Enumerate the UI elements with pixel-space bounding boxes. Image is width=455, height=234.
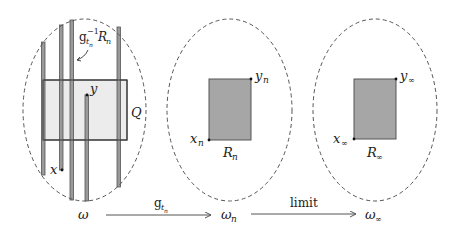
strip-bar [85,95,89,201]
diagram: x y Q g t n −1 R n ω g t n x n [0,0,455,234]
arrow-g-tn: g t n [106,196,211,215]
panel-omega-inf: x ∞ y ∞ R ∞ ω ∞ [313,19,437,224]
strip-bar [70,20,74,200]
svg-text:∞: ∞ [375,215,382,224]
svg-text:n: n [263,75,269,85]
point-x [61,169,64,172]
label-r-inf: R ∞ [366,145,383,162]
svg-text:y: y [399,68,408,83]
svg-text:y: y [254,68,263,83]
label-y: y [89,81,98,96]
svg-text:∞: ∞ [341,139,348,148]
svg-text:n: n [198,138,204,148]
strip-label: g t n −1 R n [79,27,111,48]
rect-r-inf [354,79,396,139]
label-y-n: y n [254,68,269,85]
point-y [86,94,89,97]
point-y-inf [395,78,398,81]
strip-bar [60,25,64,170]
arrow-limit: limit [251,196,356,214]
svg-text:∞: ∞ [376,153,383,162]
svg-text:limit: limit [290,196,318,210]
label-omega-inf: ω ∞ [365,207,382,224]
svg-text:n: n [231,214,237,224]
label-y-inf: y ∞ [399,68,415,85]
point-x-n [208,139,211,142]
label-omega-n: ω n [221,207,237,224]
svg-text:x: x [333,131,341,146]
label-x: x [50,162,58,177]
panel-omega-n: x n y n R n ω n [167,19,292,224]
point-y-n [250,78,253,81]
panel-omega: x y Q g t n −1 R n ω [23,19,146,222]
rect-r-n [209,79,251,140]
svg-text:∞: ∞ [408,76,415,85]
label-x-n: x n [190,131,204,148]
label-omega: ω [78,207,89,222]
strip-bar [117,27,121,187]
label-x-inf: x ∞ [333,131,348,148]
svg-text:n: n [89,41,93,48]
svg-text:n: n [106,37,111,46]
diagram-canvas: x y Q g t n −1 R n ω g t n x n [0,0,455,234]
svg-text:n: n [232,152,238,162]
svg-text:x: x [190,131,198,146]
svg-text:n: n [164,207,168,214]
point-x-inf [353,138,356,141]
label-q: Q [131,105,142,120]
label-r-n: R n [222,145,238,162]
